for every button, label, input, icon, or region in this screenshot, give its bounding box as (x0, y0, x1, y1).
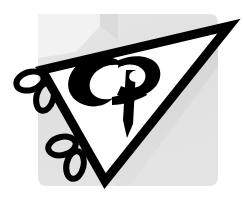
logo-artwork (0, 0, 243, 206)
logo-canvas: Stylized CP monogram inside a downward-p… (0, 0, 243, 206)
